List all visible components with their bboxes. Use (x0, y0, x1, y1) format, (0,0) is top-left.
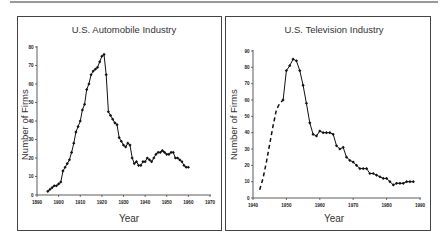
tv-x-tick-label: 1990 (415, 203, 426, 208)
auto-x-tick-label: 1960 (183, 200, 194, 205)
tv-x-tick-label: 1980 (381, 203, 392, 208)
tv-y-tick-label: 40 (244, 130, 250, 135)
tv-y-tick-label: 30 (244, 147, 250, 152)
auto-y-tick-label: 80 (28, 45, 34, 50)
auto-x-tick-label: 1930 (118, 200, 129, 205)
tv-y-tick-label: 20 (244, 163, 250, 168)
charts-canvas: U.S. Automobile Industry U.S. Television… (0, 0, 448, 242)
auto-y-tick-label: 10 (28, 174, 34, 179)
auto-panel-frame (18, 17, 222, 231)
tv-x-tick-label: 1970 (348, 203, 359, 208)
auto-y-tick-label: 30 (28, 137, 34, 142)
tv-y-tick-label: 70 (244, 81, 250, 86)
tv-x-tick-label: 1950 (281, 203, 292, 208)
tv-x-axis-label: Year (324, 213, 345, 224)
auto-chart-title: U.S. Automobile Industry (72, 24, 177, 35)
tv-y-tick-label: 50 (244, 114, 250, 119)
tv-y-tick-label: 90 (244, 49, 250, 54)
tv-y-axis-label: Number of Firms (228, 89, 239, 160)
auto-y-tick-label: 60 (28, 82, 34, 87)
tv-y-tick-label: 80 (244, 65, 250, 70)
auto-y-tick-label: 20 (28, 156, 34, 161)
auto-y-tick-label: 50 (28, 100, 34, 105)
auto-x-tick-label: 1900 (54, 200, 65, 205)
auto-y-tick-label: 0 (31, 193, 34, 198)
auto-x-tick-label: 1890 (32, 200, 43, 205)
auto-x-tick-label: 1940 (140, 200, 151, 205)
auto-y-tick-label: 40 (28, 119, 34, 124)
auto-x-tick-label: 1920 (97, 200, 108, 205)
auto-x-tick-label: 1970 (205, 200, 216, 205)
tv-y-tick-label: 60 (244, 98, 250, 103)
tv-x-tick-label: 1960 (315, 203, 326, 208)
tv-y-tick-label: 0 (247, 196, 250, 201)
auto-x-tick-label: 1950 (162, 200, 173, 205)
auto-x-axis-label: Year (119, 213, 140, 224)
auto-x-tick-label: 1910 (75, 200, 86, 205)
tv-x-tick-label: 1940 (248, 203, 259, 208)
tv-chart-title: U.S. Television Industry (284, 24, 383, 35)
auto-y-tick-label: 70 (28, 63, 34, 68)
tv-y-tick-label: 10 (244, 179, 250, 184)
